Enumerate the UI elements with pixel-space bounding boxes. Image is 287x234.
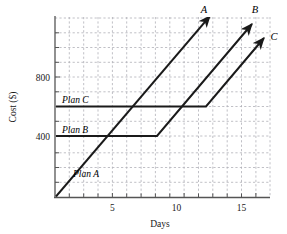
x-tick-label-10: 10 xyxy=(172,203,182,213)
y-tick-label-400: 400 xyxy=(36,132,51,142)
cost-vs-days-chart: [data-name="grid-vertical-lines"] line, … xyxy=(0,0,287,234)
x-axis-title: Days xyxy=(150,219,170,229)
x-tick-label-5: 5 xyxy=(110,203,115,213)
y-axis-ticks xyxy=(55,33,60,183)
plan-a-inline-label: Plan A xyxy=(72,169,99,179)
curve-label-b: B xyxy=(252,4,259,15)
plan-b-inline-label: Plan B xyxy=(61,125,88,135)
x-axis-ticks xyxy=(69,193,256,198)
y-tick-label-800: 800 xyxy=(36,73,51,83)
chart-svg: [data-name="grid-vertical-lines"] line, … xyxy=(0,0,287,234)
curve-label-c: C xyxy=(270,31,278,42)
plan-c-inline-label: Plan C xyxy=(61,95,89,105)
y-axis-title: Cost ($) xyxy=(8,92,19,123)
x-tick-label-15: 15 xyxy=(237,203,247,213)
plan-b-line xyxy=(56,24,252,136)
curve-label-a: A xyxy=(200,4,208,15)
